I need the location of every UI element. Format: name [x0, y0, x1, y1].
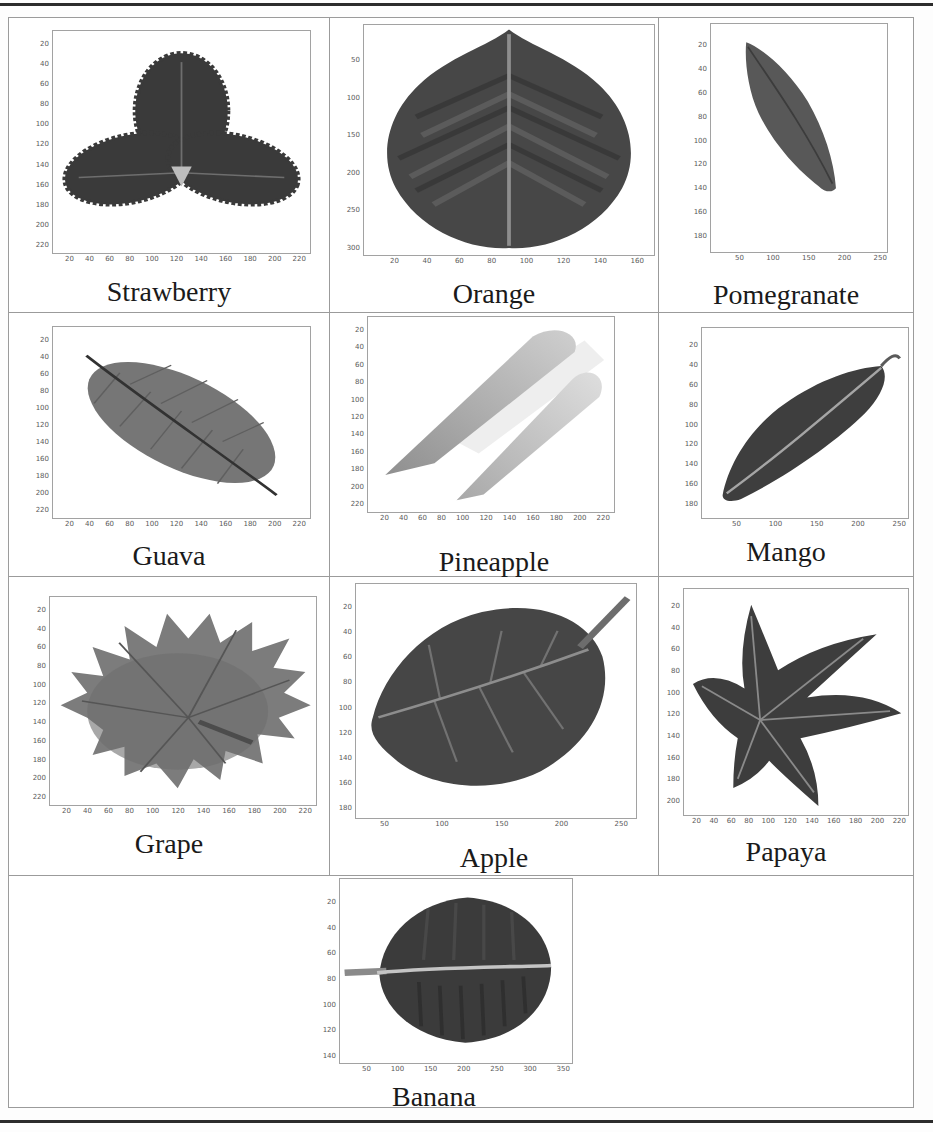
axis-tick-label: 120 — [36, 141, 49, 148]
axis-tick-label: 100 — [339, 705, 352, 712]
axis-tick-label: 20 — [40, 41, 49, 48]
axis-tick-label: 120 — [667, 711, 680, 718]
axis-tick-label: 40 — [671, 625, 680, 632]
axis-tick-label: 40 — [343, 629, 352, 636]
axis-tick-label: 40 — [85, 521, 94, 528]
axis-tick-label: 40 — [37, 626, 46, 633]
axis-tick-label: 100 — [456, 515, 469, 522]
axis-tick-label: 40 — [689, 362, 698, 369]
axis-tick-label: 80 — [343, 679, 352, 686]
banana-plot: 20406080100120140 50100150200250 — [339, 878, 573, 1064]
axis-tick-label: 200 — [36, 490, 49, 497]
axis-tick-label: 180 — [550, 515, 563, 522]
axis-tick-label: 50 — [351, 57, 360, 64]
page-top-rule — [0, 3, 933, 6]
leaf-tip — [881, 356, 900, 366]
axis-tick-label: 80 — [744, 818, 753, 825]
axis-tick-label: 140 — [694, 185, 707, 192]
axis-tick-label: 160 — [694, 209, 707, 216]
axis-tick-label: 180 — [351, 466, 364, 473]
banana-x-axis: 50100150200250300350 — [336, 1066, 576, 1073]
axis-tick-label: 20 — [689, 342, 698, 349]
axis-tick-label: 80 — [671, 668, 680, 675]
axis-tick-label: 120 — [33, 700, 46, 707]
pomegranate-leaf-image — [711, 24, 887, 252]
leaf-shading — [87, 653, 268, 769]
axis-tick-label: 160 — [339, 780, 352, 787]
axis-tick-label: 180 — [36, 202, 49, 209]
axis-tick-label: 250 — [347, 207, 360, 214]
papaya-y-axis: 20406080100120140160180200 — [667, 589, 680, 815]
axis-tick-label: 100 — [435, 821, 448, 828]
figure-row-1: 20406080100120140160180200220 2040608010… — [9, 18, 913, 313]
axis-tick-label: 220 — [597, 515, 610, 522]
axis-tick-label: 100 — [762, 818, 775, 825]
papaya-leaf-image — [684, 589, 908, 815]
axis-tick-label: 140 — [685, 461, 698, 468]
axis-tick-label: 120 — [694, 161, 707, 168]
axis-tick-label: 80 — [125, 256, 134, 263]
axis-tick-label: 120 — [323, 1027, 336, 1034]
orange-panel: 50100150200250300 204060801001 — [330, 18, 659, 312]
figure-row-4: 20406080100120140 50100150200250 — [9, 876, 913, 1109]
strawberry-panel: 20406080100120140160180200220 2040608010… — [9, 18, 330, 312]
axis-tick-label: 120 — [36, 422, 49, 429]
axis-tick-label: 20 — [390, 258, 399, 265]
axis-tick-label: 60 — [105, 521, 114, 528]
pineapple-panel: 20406080100120140160180200220 — [330, 313, 659, 576]
axis-tick-label: 60 — [327, 950, 336, 957]
guava-x-axis: 20406080100120140160180200220 — [49, 521, 314, 528]
axis-tick-label: 60 — [40, 371, 49, 378]
mango-plot: 20406080100120140160180 50100150200250 — [701, 327, 909, 519]
axis-tick-label: 50 — [362, 1066, 371, 1073]
axis-tick-label: 120 — [171, 808, 184, 815]
mango-x-axis: 50100150200250 — [698, 521, 912, 528]
axis-tick-label: 100 — [685, 422, 698, 429]
axis-tick-label: 220 — [36, 242, 49, 249]
axis-tick-label: 20 — [692, 818, 701, 825]
axis-tick-label: 250 — [893, 521, 906, 528]
leaf-blade-upper — [385, 330, 576, 475]
axis-tick-label: 140 — [594, 258, 607, 265]
leaf-label: Grape — [9, 829, 329, 860]
axis-tick-label: 140 — [323, 1053, 336, 1060]
axis-tick-label: 60 — [671, 646, 680, 653]
axis-tick-label: 40 — [327, 925, 336, 932]
axis-tick-label: 180 — [33, 757, 46, 764]
axis-tick-label: 200 — [457, 1066, 470, 1073]
axis-tick-label: 160 — [827, 818, 840, 825]
axis-tick-label: 40 — [698, 66, 707, 73]
axis-tick-label: 20 — [40, 337, 49, 344]
axis-tick-label: 100 — [145, 256, 158, 263]
strawberry-plot: 20406080100120140160180200220 2040608010… — [52, 30, 311, 254]
strawberry-y-axis: 20406080100120140160180200220 — [36, 31, 49, 253]
axis-tick-label: 60 — [689, 382, 698, 389]
axis-tick-label: 100 — [520, 258, 533, 265]
axis-tick-label: 200 — [351, 484, 364, 491]
axis-tick-label: 60 — [104, 808, 113, 815]
orange-y-axis: 50100150200250300 — [347, 25, 360, 255]
axis-tick-label: 150 — [424, 1066, 437, 1073]
papaya-plot: 20406080100120140160180200 2040608010012… — [683, 588, 909, 816]
axis-tick-label: 180 — [667, 776, 680, 783]
axis-tick-label: 140 — [339, 755, 352, 762]
axis-tick-label: 140 — [503, 515, 516, 522]
axis-tick-label: 80 — [40, 101, 49, 108]
axis-tick-label: 200 — [555, 821, 568, 828]
axis-tick-label: 60 — [727, 818, 736, 825]
orange-x-axis: 20406080100120140160 — [360, 258, 658, 265]
axis-tick-label: 100 — [347, 95, 360, 102]
axis-tick-label: 140 — [351, 431, 364, 438]
axis-tick-label: 40 — [709, 818, 718, 825]
axis-tick-label: 100 — [323, 1002, 336, 1009]
axis-tick-label: 50 — [732, 521, 741, 528]
axis-tick-label: 80 — [689, 402, 698, 409]
axis-tick-label: 80 — [437, 515, 446, 522]
axis-tick-label: 200 — [667, 798, 680, 805]
axis-tick-label: 220 — [293, 256, 306, 263]
axis-tick-label: 220 — [33, 794, 46, 801]
axis-tick-label: 100 — [36, 121, 49, 128]
axis-tick-label: 60 — [455, 258, 464, 265]
axis-tick-label: 140 — [194, 256, 207, 263]
pineapple-leaf-image — [368, 317, 614, 512]
